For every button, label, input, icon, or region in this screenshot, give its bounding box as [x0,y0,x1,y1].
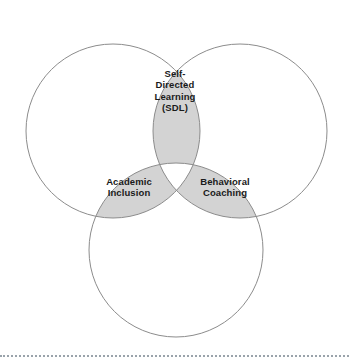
venn-diagram-canvas [0,0,349,364]
bottom-dotted-rule [0,355,349,357]
venn-diagram: Self- Directed Learning (SDL) Academic I… [0,0,349,364]
triple-intersection-region [0,0,349,364]
